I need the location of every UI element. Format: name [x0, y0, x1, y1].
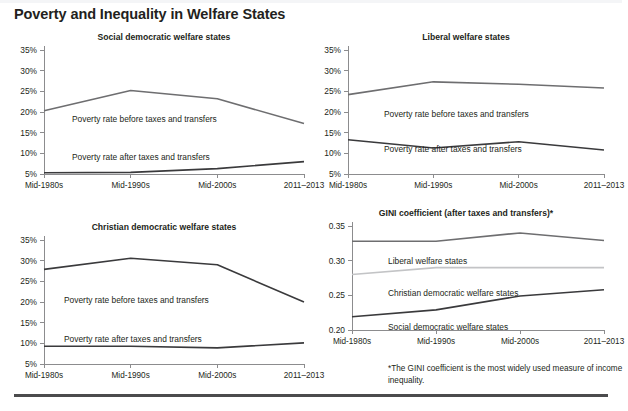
- y-axis-tick-label: 20%: [14, 107, 37, 117]
- series-annotation: Poverty rate before taxes and transfers: [72, 114, 217, 124]
- chart-svg: [318, 208, 614, 358]
- y-axis-tick-label: 5%: [14, 169, 37, 179]
- top-divider: [0, 0, 622, 3]
- bottom-divider: [14, 394, 608, 397]
- y-axis-tick-label: 15%: [14, 128, 37, 138]
- y-axis-tick-label: 0.20: [318, 325, 345, 335]
- x-axis-tick-label: Mid-2000s: [198, 371, 236, 380]
- chart-svg: [14, 222, 314, 392]
- y-axis-tick-label: 35%: [14, 235, 37, 245]
- y-axis-tick-label: 10%: [318, 148, 341, 158]
- x-axis-tick-label: Mid-2000s: [500, 181, 538, 190]
- x-axis-tick-label: Mid-1980s: [333, 337, 371, 346]
- y-axis-tick-label: 5%: [318, 169, 341, 179]
- x-axis-tick-label: Mid-1990s: [414, 181, 452, 190]
- series-line: [44, 162, 304, 173]
- chart-panel-social-democratic: Social democratic welfare states 5%10%15…: [14, 32, 314, 202]
- y-axis-tick-label: 15%: [318, 128, 341, 138]
- x-axis-tick-label: Mid-1980s: [25, 181, 63, 190]
- y-axis-tick-label: 30%: [14, 256, 37, 266]
- y-axis-tick-label: 15%: [14, 318, 37, 328]
- y-axis-tick-label: 20%: [318, 107, 341, 117]
- series-annotation: Social democratic welfare states: [388, 322, 508, 332]
- x-axis-tick-label: Mid-1980s: [329, 181, 367, 190]
- plot-area: 5%10%15%20%25%30%35%Mid-1980sMid-1990sMi…: [14, 222, 314, 392]
- x-axis-tick-label: 2011–2013: [584, 181, 624, 190]
- series-annotation: Liberal welfare states: [388, 256, 467, 266]
- x-axis-tick-label: Mid-1990s: [112, 181, 150, 190]
- series-annotation: Poverty rate before taxes and transfers: [384, 109, 529, 119]
- series-annotation: Poverty rate after taxes and transfers: [384, 144, 522, 154]
- gini-footnote: *The GINI coefficient is the most widely…: [388, 363, 628, 387]
- chart-panel-christian-democratic: Christian democratic welfare states 5%10…: [14, 222, 314, 392]
- y-axis-tick-label: 0.35: [318, 221, 345, 231]
- plot-area: 0.200.250.300.35Mid-1980sMid-1990sMid-20…: [318, 208, 614, 358]
- page-title: Poverty and Inequality in Welfare States: [14, 6, 285, 22]
- chart-panel-gini: GINI coefficient (after taxes and transf…: [318, 208, 614, 358]
- y-axis-tick-label: 25%: [14, 86, 37, 96]
- y-axis-tick-label: 35%: [318, 45, 341, 55]
- series-annotation: Poverty rate after taxes and transfers: [72, 152, 210, 162]
- y-axis-tick-label: 35%: [14, 45, 37, 55]
- series-line: [348, 82, 604, 95]
- series-line: [352, 233, 604, 241]
- x-axis-tick-label: 2011–2013: [584, 337, 624, 346]
- y-axis-tick-label: 25%: [318, 86, 341, 96]
- chart-panel-liberal: Liberal welfare states 5%10%15%20%25%30%…: [318, 32, 614, 202]
- x-axis-tick-label: 2011–2013: [284, 371, 324, 380]
- y-axis-tick-label: 0.30: [318, 256, 345, 266]
- series-annotation: Poverty rate before taxes and transfers: [64, 295, 209, 305]
- x-axis-tick-label: Mid-2000s: [501, 337, 539, 346]
- y-axis-tick-label: 20%: [14, 297, 37, 307]
- x-axis-tick-label: Mid-1980s: [25, 371, 63, 380]
- x-axis-tick-label: Mid-1990s: [417, 337, 455, 346]
- y-axis-tick-label: 30%: [14, 66, 37, 76]
- y-axis-tick-label: 30%: [318, 66, 341, 76]
- plot-area: 5%10%15%20%25%30%35%Mid-1980sMid-1990sMi…: [14, 32, 314, 202]
- series-line: [352, 268, 604, 275]
- plot-area: 5%10%15%20%25%30%35%Mid-1980sMid-1990sMi…: [318, 32, 614, 202]
- y-axis-tick-label: 5%: [14, 359, 37, 369]
- y-axis-tick-label: 25%: [14, 276, 37, 286]
- x-axis-tick-label: Mid-1990s: [112, 371, 150, 380]
- series-annotation: Poverty rate after taxes and transfers: [64, 334, 202, 344]
- x-axis-tick-label: Mid-2000s: [198, 181, 236, 190]
- series-annotation: Christian democratic welfare states: [388, 288, 518, 298]
- y-axis-tick-label: 10%: [14, 148, 37, 158]
- y-axis-tick-label: 10%: [14, 338, 37, 348]
- y-axis-tick-label: 0.25: [318, 290, 345, 300]
